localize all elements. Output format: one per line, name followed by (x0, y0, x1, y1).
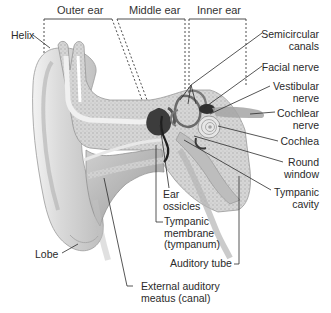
label-round-window: Round window (284, 157, 319, 180)
label-facial-nerve: Facial nerve (262, 62, 319, 74)
label-external-auditory-meatus: External auditory meatus (canal) (141, 281, 220, 304)
label-tympanic-membrane-line3: (tympanum) (164, 239, 220, 251)
label-helix: Helix (11, 30, 34, 42)
label-semicircular-line1: Semicircular (261, 29, 319, 41)
cochlea-shape (198, 116, 220, 138)
label-lobe: Lobe (35, 249, 58, 261)
label-round-window-line2: window (284, 169, 319, 181)
label-tympanic-membrane: Tympanic membrane (tympanum) (164, 216, 220, 251)
label-ear-ossicles-line1: Ear (163, 189, 200, 201)
label-auditory-tube: Auditory tube (170, 258, 232, 270)
label-eam-line2: meatus (canal) (141, 293, 220, 305)
label-tympanic-cavity-line1: Tympanic (274, 187, 319, 199)
label-cochlear-nerve-line2: nerve (277, 120, 319, 132)
label-vestibular-line2: nerve (273, 93, 319, 105)
label-cochlear-nerve: Cochlear nerve (277, 108, 319, 131)
label-semicircular-canals: Semicircular canals (261, 29, 319, 52)
label-round-window-line1: Round (284, 157, 319, 169)
label-tympanic-cavity-line2: cavity (274, 199, 319, 211)
label-eam-line1: External auditory (141, 281, 220, 293)
label-ear-ossicles: Ear ossicles (163, 189, 200, 212)
label-cochlear-nerve-line1: Cochlear (277, 108, 319, 120)
section-label-inner-ear: Inner ear (197, 5, 241, 17)
section-label-middle-ear: Middle ear (129, 5, 180, 17)
label-semicircular-line2: canals (261, 41, 319, 53)
label-vestibular-line1: Vestibular (273, 81, 319, 93)
label-cochlea: Cochlea (280, 136, 319, 148)
label-tympanic-membrane-line1: Tympanic (164, 216, 220, 228)
section-label-outer-ear: Outer ear (57, 5, 103, 17)
label-ear-ossicles-line2: ossicles (163, 201, 200, 213)
label-tympanic-cavity: Tympanic cavity (274, 187, 319, 210)
label-vestibular-nerve: Vestibular nerve (273, 81, 319, 104)
